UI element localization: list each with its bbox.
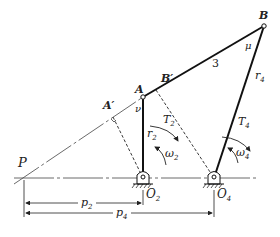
label-t4: T4 xyxy=(238,116,250,130)
label-o2: O2 xyxy=(146,188,160,203)
label-omega4: ω4 xyxy=(236,147,249,161)
label-p4: p4 xyxy=(113,207,131,221)
label-p: P xyxy=(18,156,27,169)
coupler-link xyxy=(143,26,264,97)
ground-pivot-o2 xyxy=(132,172,153,189)
ground-pivot-o4 xyxy=(203,172,224,189)
label-nu: ν xyxy=(135,104,141,114)
label-b-prime: B′ xyxy=(161,73,173,84)
label-o4: O4 xyxy=(217,188,231,203)
perpendicular-o2-aprime xyxy=(113,117,143,178)
joint-b xyxy=(262,24,266,28)
label-mu: μ xyxy=(245,41,252,51)
label-coupler-3: 3 xyxy=(212,58,219,69)
perpendicular-o4-bprime xyxy=(156,90,214,178)
label-r4: r4 xyxy=(255,70,265,84)
label-a-prime: A′ xyxy=(103,100,114,111)
label-t2: T2 xyxy=(163,114,175,128)
label-b: B xyxy=(259,10,268,21)
label-r2: r2 xyxy=(147,128,157,142)
coupler-extension-line xyxy=(14,97,143,184)
label-a: A xyxy=(135,84,144,95)
label-p2: p2 xyxy=(78,197,96,211)
label-omega2: ω2 xyxy=(165,148,178,162)
